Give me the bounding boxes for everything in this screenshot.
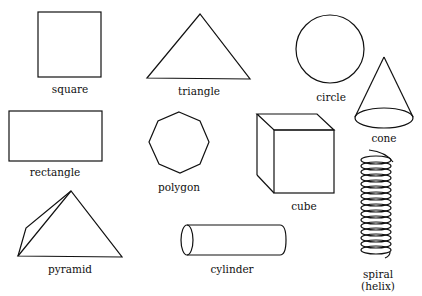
rectangle-shape — [9, 111, 102, 161]
triangle-label: triangle — [178, 85, 220, 97]
circle-shape — [296, 15, 364, 83]
cone-label: cone — [371, 132, 396, 144]
cylinder-shape — [181, 225, 286, 255]
square-shape — [38, 12, 101, 77]
polygon-shape — [149, 112, 209, 173]
spiral-helix-shape — [361, 150, 393, 258]
cylinder-label: cylinder — [210, 263, 253, 275]
cone-shape — [355, 57, 413, 128]
shapes-drawing — [0, 0, 422, 296]
rectangle-label: rectangle — [30, 166, 81, 178]
cube-shape — [257, 114, 334, 193]
helix-label: (helix) — [361, 280, 395, 292]
square-label: square — [52, 83, 88, 95]
geometric-shapes-diagram: square triangle circle cone rectangle po… — [0, 0, 422, 296]
spiral-label: spiral — [363, 268, 393, 280]
cube-label: cube — [291, 200, 317, 212]
pyramid-shape — [18, 191, 122, 257]
pyramid-label: pyramid — [48, 263, 92, 275]
circle-label: circle — [316, 91, 346, 103]
polygon-label: polygon — [158, 181, 200, 193]
triangle-shape — [147, 14, 250, 79]
